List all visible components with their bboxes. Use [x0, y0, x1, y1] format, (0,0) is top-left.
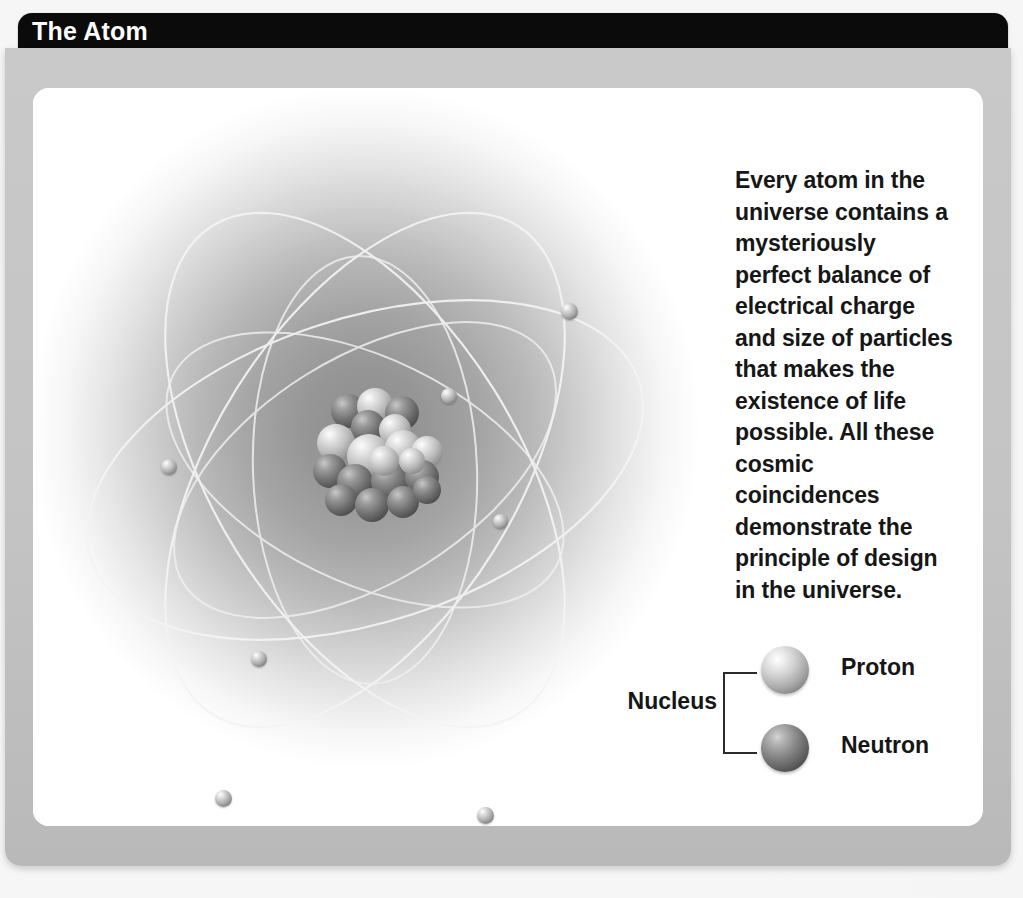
- legend-label-proton: Proton: [841, 654, 915, 681]
- legend-bracket: [723, 672, 757, 754]
- electron-3: [161, 459, 177, 475]
- proton-sphere-icon: [761, 646, 809, 694]
- electron-2: [441, 388, 457, 404]
- electron-4: [493, 514, 508, 529]
- electron-1: [561, 303, 578, 320]
- page-title: The Atom: [32, 16, 148, 46]
- electron-5: [251, 651, 267, 667]
- figure-frame: Every atom in the universe contains a my…: [5, 48, 1011, 866]
- neutron-sphere-icon: [761, 724, 809, 772]
- page-background: Finding Confidence in a Designed Univers…: [0, 0, 1023, 898]
- title-banner: The Atom: [18, 13, 1008, 48]
- figure-panel: Every atom in the universe contains a my…: [33, 88, 983, 826]
- legend-label-neutron: Neutron: [841, 732, 929, 759]
- electron-7: [477, 807, 494, 824]
- legend: Nucleus Proton Neutron Electron: [593, 636, 973, 826]
- legend-nucleus-label: Nucleus: [625, 688, 717, 715]
- nucleus-cluster: [313, 388, 453, 528]
- electron-6: [215, 790, 232, 807]
- body-paragraph: Every atom in the universe contains a my…: [735, 165, 957, 606]
